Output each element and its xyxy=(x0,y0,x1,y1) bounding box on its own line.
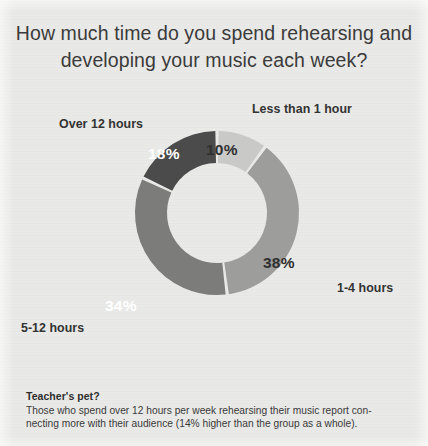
infographic-page: How much time do you spend rehearsing an… xyxy=(0,0,428,446)
caption-line-2: necting more with their audience (14% hi… xyxy=(26,418,357,429)
slice-value-less-than-1-hour: 10% xyxy=(206,141,238,159)
category-label-1-4-hours: 1-4 hours xyxy=(337,281,393,295)
donut-chart: 10% 38% 34% 18% Less than 1 hour 1-4 hou… xyxy=(0,95,428,370)
slice-value-1-4-hours: 38% xyxy=(263,254,295,272)
page-title: How much time do you spend rehearsing an… xyxy=(0,20,428,74)
caption-line-1: Those who spend over 12 hours per week r… xyxy=(26,405,372,416)
category-label-over-12-hours: Over 12 hours xyxy=(59,117,143,131)
page-title-line-1: How much time do you spend rehearsing an… xyxy=(0,20,428,47)
caption-heading: Teacher's pet? xyxy=(26,390,386,402)
slice-value-over-12-hours: 18% xyxy=(148,145,180,163)
slice-value-5-12-hours: 34% xyxy=(105,297,137,315)
page-title-line-2: developing your music each week? xyxy=(0,47,428,74)
donut-slice xyxy=(135,180,226,295)
category-label-less-than-1-hour: Less than 1 hour xyxy=(252,102,352,116)
caption-block: Teacher's pet? Those who spend over 12 h… xyxy=(26,390,386,431)
donut-slice xyxy=(224,148,299,294)
caption-body: Those who spend over 12 hours per week r… xyxy=(26,404,386,431)
category-label-5-12-hours: 5-12 hours xyxy=(21,321,84,335)
